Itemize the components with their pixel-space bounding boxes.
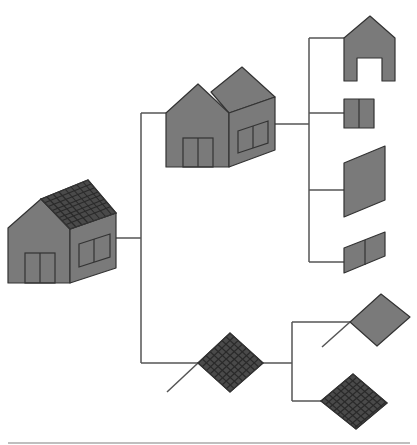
diagram-canvas xyxy=(0,0,417,445)
gable-wall-icon xyxy=(344,16,395,81)
door-part-icon xyxy=(344,99,374,128)
house-body-icon xyxy=(166,67,275,167)
panel-cells-icon xyxy=(317,362,393,432)
window-part-icon xyxy=(344,232,385,273)
house-with-solar-icon xyxy=(8,180,116,283)
connector-frame-diagonal xyxy=(322,322,350,347)
connector-solar-diagonal xyxy=(167,363,198,392)
roof-plane-icon xyxy=(344,146,385,217)
panel-frame-icon xyxy=(350,294,410,346)
solar-panel-icon xyxy=(194,321,267,393)
